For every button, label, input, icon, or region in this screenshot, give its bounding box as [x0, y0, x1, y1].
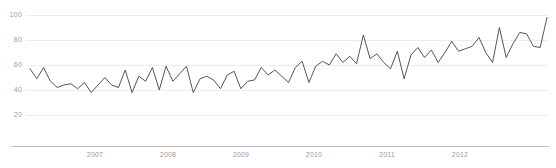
y-tick-label: 80 — [0, 36, 22, 43]
x-tick-label: 2009 — [226, 151, 256, 158]
x-tick-label: 2008 — [153, 151, 183, 158]
gridlines — [26, 15, 549, 115]
y-tick-label: 40 — [0, 86, 22, 93]
x-tick-label: 2012 — [445, 151, 475, 158]
y-tick-label: 100 — [0, 11, 22, 18]
chart-plot-area — [0, 0, 556, 168]
x-tick-label: 2007 — [80, 151, 110, 158]
x-tick-label: 2011 — [372, 151, 402, 158]
x-tick-label: 2010 — [299, 151, 329, 158]
line-chart: 20406080100 200720082009201020112012 — [0, 0, 556, 168]
y-tick-label: 60 — [0, 61, 22, 68]
y-tick-label: 20 — [0, 111, 22, 118]
data-series-line — [30, 18, 547, 93]
